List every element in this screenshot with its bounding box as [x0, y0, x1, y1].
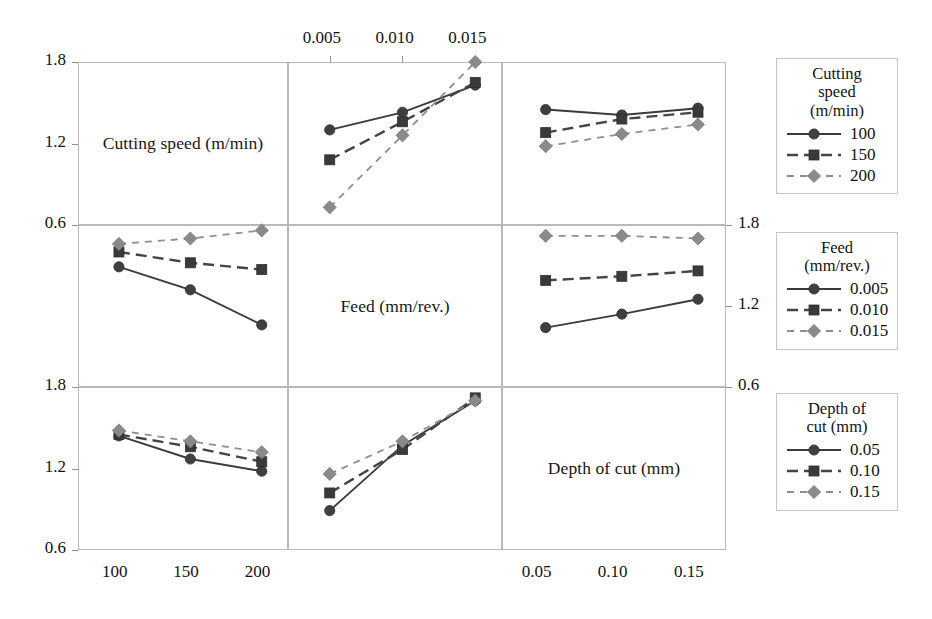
legend-key-swatch [785, 462, 843, 480]
diagonal-panel-feed-mm-rev: Feed (mm/rev.) [288, 225, 502, 387]
legend-title-line: Depth of [785, 400, 889, 418]
series-0-005 [541, 294, 704, 333]
series-canvas [78, 387, 288, 550]
square-marker [470, 77, 480, 87]
legend-entry-label: 0.005 [850, 279, 888, 299]
legend-entry-0-10[interactable]: 0.10 [785, 461, 889, 482]
circle-marker [617, 309, 627, 319]
top-tick-0.015: 0.015 [448, 28, 486, 48]
diamond-marker [615, 229, 628, 242]
square-marker [617, 114, 627, 124]
legend-key-swatch [785, 441, 843, 459]
interaction-panel-r2-c0 [78, 387, 288, 550]
diamond-marker [807, 486, 820, 499]
legend-title-line: Cutting [785, 65, 889, 83]
legend-entry-label: 0.15 [850, 482, 880, 502]
legend-entry-0-05[interactable]: 0.05 [785, 440, 889, 461]
legend-entry-label: 150 [850, 145, 876, 165]
circle-marker [809, 129, 819, 139]
circle-marker [541, 104, 551, 114]
bottom-tick-depth-0-15: 0.15 [674, 562, 704, 582]
legend-depth-of-cut: Depth ofcut (mm)0.050.100.15 [776, 393, 898, 511]
bottom-tick-speed-100: 100 [102, 562, 128, 582]
right-tick-r2-1-2: 1.2 [738, 294, 759, 314]
tick-mark [402, 56, 403, 62]
right-tick-r2-0-6: 0.6 [738, 375, 759, 395]
right-tick-r2-1-8: 1.8 [738, 213, 759, 233]
series-canvas [78, 225, 288, 387]
legend-title-line: cut (mm) [785, 418, 889, 436]
tick-mark [72, 387, 78, 388]
tick-mark [72, 225, 78, 226]
tick-mark [726, 225, 732, 226]
top-tick-0.005: 0.005 [303, 28, 341, 48]
tick-mark [726, 306, 732, 307]
interaction-panel-r0-c2 [502, 62, 726, 225]
legend-entry-100[interactable]: 100 [785, 123, 889, 144]
tick-mark [330, 56, 331, 62]
legend-title-line: (mm/rev.) [785, 257, 889, 275]
circle-marker [185, 454, 195, 464]
circle-marker [809, 284, 819, 294]
legend-entries: 0.050.100.15 [785, 440, 889, 503]
square-marker [185, 258, 195, 268]
plot-matrix: Cutting speed (m/min)Feed (mm/rev.)Depth… [78, 62, 726, 550]
series-200 [323, 55, 482, 214]
left-tick-r3-0-6: 0.6 [26, 538, 66, 558]
legend-entry-label: 0.05 [850, 440, 880, 460]
diamond-marker [807, 325, 820, 338]
diamond-marker [255, 224, 268, 237]
diamond-marker [615, 127, 628, 140]
interaction-panel-r2-c1 [288, 387, 502, 550]
circle-marker [809, 445, 819, 455]
square-marker [809, 150, 819, 160]
square-marker [325, 155, 335, 165]
factor-name-label: Cutting speed (m/min) [78, 62, 288, 225]
circle-marker [257, 320, 267, 330]
diamond-marker [691, 232, 704, 245]
legend-entry-0-010[interactable]: 0.010 [785, 300, 889, 321]
legend-entries: 100150200 [785, 123, 889, 186]
legend-key-swatch [785, 483, 843, 501]
legend-key-swatch [785, 322, 843, 340]
square-marker [693, 266, 703, 276]
bottom-tick-depth-0-05: 0.05 [522, 562, 552, 582]
circle-marker [541, 323, 551, 333]
diagonal-panel-cutting-speed-m-min: Cutting speed (m/min) [78, 62, 288, 225]
series-canvas [502, 225, 726, 387]
legend-entry-label: 0.10 [850, 461, 880, 481]
legend-entries: 0.0050.0100.015 [785, 279, 889, 342]
legend-entry-0-15[interactable]: 0.15 [785, 482, 889, 503]
diamond-marker [323, 467, 336, 480]
bottom-tick-speed-200: 200 [245, 562, 271, 582]
diamond-marker [539, 229, 552, 242]
series-canvas [288, 387, 502, 550]
tick-mark [72, 550, 78, 551]
legend-entry-0-005[interactable]: 0.005 [785, 279, 889, 300]
left-tick-r3-1-2: 1.2 [26, 457, 66, 477]
legend-cutting-speed: Cuttingspeed(m/min)100150200 [776, 58, 898, 194]
circle-marker [693, 294, 703, 304]
square-marker [541, 275, 551, 285]
legend-title: Depth ofcut (mm) [785, 400, 889, 437]
series-0-010 [541, 266, 703, 285]
series-canvas [288, 62, 502, 225]
square-marker [397, 117, 407, 127]
square-marker [809, 466, 819, 476]
legend-entry-label: 100 [850, 124, 876, 144]
legend-entry-150[interactable]: 150 [785, 144, 889, 165]
circle-marker [185, 285, 195, 295]
legend-key-swatch [785, 125, 843, 143]
series-0-015 [112, 224, 268, 251]
series-0-010 [114, 247, 267, 275]
legend-entry-200[interactable]: 200 [785, 165, 889, 186]
series-0-015 [539, 229, 705, 245]
tick-mark [72, 144, 78, 145]
legend-entry-0-015[interactable]: 0.015 [785, 321, 889, 342]
legend-entry-label: 0.010 [850, 300, 888, 320]
interaction-panel-r1-c2 [502, 225, 726, 387]
square-marker [325, 488, 335, 498]
factor-name-label: Feed (mm/rev.) [288, 225, 502, 387]
diamond-marker [807, 169, 820, 182]
interaction-panel-r0-c1 [288, 62, 502, 225]
